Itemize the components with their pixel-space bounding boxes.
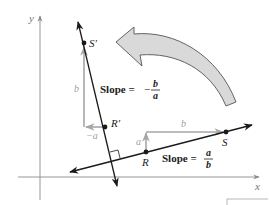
point-R-prime	[103, 125, 108, 130]
slope-label-perpendicular: Slope = − b a	[100, 78, 160, 101]
label-b-vertical: b	[74, 83, 79, 94]
point-R	[144, 150, 149, 155]
y-axis-label: y	[28, 12, 34, 24]
slope-perp-denominator: a	[153, 90, 158, 101]
perpendicular-slopes-diagram: y x a b −a b S′	[0, 0, 269, 205]
label-neg-a: −a	[86, 130, 98, 141]
point-S	[224, 130, 229, 135]
slope-perp-sign: −	[144, 83, 150, 95]
slope-perp-numerator: b	[153, 78, 158, 89]
slope-orig-prefix: Slope =	[162, 152, 197, 164]
point-S-prime	[82, 41, 87, 46]
slope-orig-denominator: b	[206, 159, 211, 170]
label-b: b	[181, 118, 186, 129]
slope-perp-prefix: Slope =	[100, 83, 135, 95]
label-S-prime: S′	[89, 37, 98, 49]
right-angle-marker	[110, 150, 120, 158]
x-axis-label: x	[254, 180, 260, 192]
label-R: R	[141, 156, 149, 168]
slope-label-original: Slope = a b	[162, 147, 213, 170]
label-S: S	[222, 136, 228, 148]
corner-bracket	[227, 199, 268, 205]
label-R-prime: R′	[110, 117, 121, 129]
diagram-canvas: y x a b −a b S′	[0, 0, 269, 205]
slope-orig-numerator: a	[206, 147, 211, 158]
label-a: a	[136, 136, 141, 147]
